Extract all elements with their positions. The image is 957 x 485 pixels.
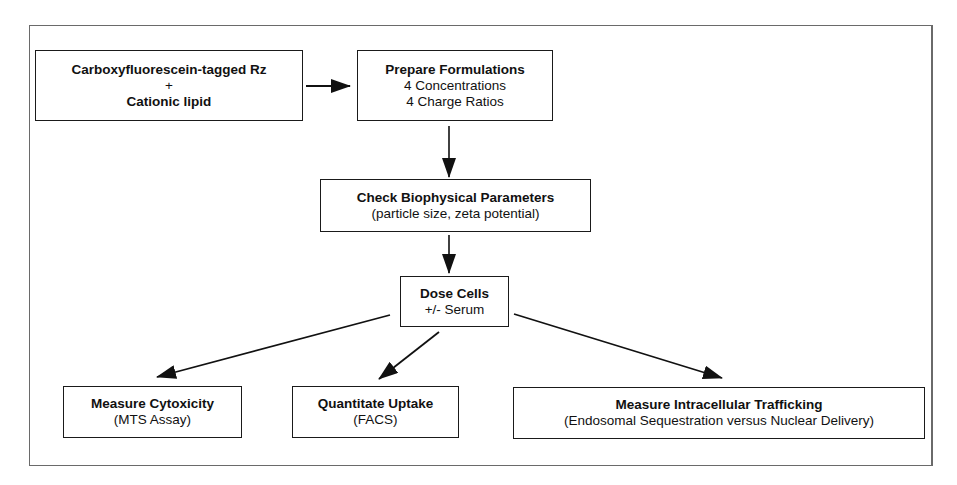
- node-input-line3: Cationic lipid: [127, 94, 212, 110]
- node-quantitate-uptake: Quantitate Uptake (FACS): [292, 386, 459, 438]
- node-trafficking-title: Measure Intracellular Trafficking: [615, 397, 822, 413]
- node-input-line1: Carboxyfluorescein-tagged Rz: [71, 62, 266, 78]
- arrow-dose-to-uptake: [379, 332, 439, 379]
- arrow-dose-to-cytotoxicity: [157, 315, 390, 377]
- node-prepare-line2: 4 Concentrations: [404, 78, 506, 94]
- node-trafficking-line2: (Endosomal Sequestration versus Nuclear …: [564, 413, 874, 429]
- node-check-title: Check Biophysical Parameters: [357, 190, 554, 206]
- arrow-dose-to-trafficking: [514, 314, 722, 378]
- node-prepare-line3: 4 Charge Ratios: [406, 94, 504, 110]
- node-dose-cells: Dose Cells +/- Serum: [400, 276, 509, 327]
- node-input-plus: +: [165, 78, 173, 94]
- node-prepare-title: Prepare Formulations: [385, 62, 525, 78]
- node-check-biophysical: Check Biophysical Parameters (particle s…: [320, 179, 591, 232]
- node-dose-line2: +/- Serum: [425, 302, 485, 318]
- node-cytotoxicity-line2: (MTS Assay): [114, 412, 191, 428]
- node-measure-trafficking: Measure Intracellular Trafficking (Endos…: [513, 387, 925, 439]
- node-prepare-formulations: Prepare Formulations 4 Concentrations 4 …: [357, 50, 553, 121]
- node-dose-title: Dose Cells: [420, 286, 489, 302]
- node-measure-cytotoxicity: Measure Cytoxicity (MTS Assay): [63, 386, 242, 438]
- node-input: Carboxyfluorescein-tagged Rz + Cationic …: [35, 50, 303, 121]
- node-uptake-line2: (FACS): [353, 412, 397, 428]
- node-cytotoxicity-title: Measure Cytoxicity: [91, 396, 214, 412]
- node-uptake-title: Quantitate Uptake: [318, 396, 434, 412]
- node-check-line2: (particle size, zeta potential): [371, 206, 539, 222]
